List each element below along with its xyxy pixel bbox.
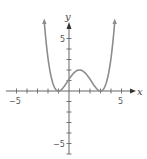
curve-arrow-icon (112, 19, 116, 25)
x-tick-label-neg5: −5 (9, 97, 21, 106)
y-axis-arrow-icon (67, 22, 72, 29)
axes (6, 22, 136, 154)
x-axis-arrow-icon (130, 89, 136, 94)
x-axis-label: x (137, 86, 143, 97)
x-tick-label-5: 5 (118, 97, 123, 106)
y-axis-label: y (64, 11, 71, 22)
function-graph: x y −5 5 5 −5 (0, 0, 147, 159)
curve-arrow-icon (42, 19, 46, 25)
curve-arrowheads (42, 19, 117, 25)
y-tick-label-5: 5 (60, 35, 65, 44)
function-curve (44, 23, 114, 91)
y-tick-label-neg5: −5 (53, 140, 65, 149)
